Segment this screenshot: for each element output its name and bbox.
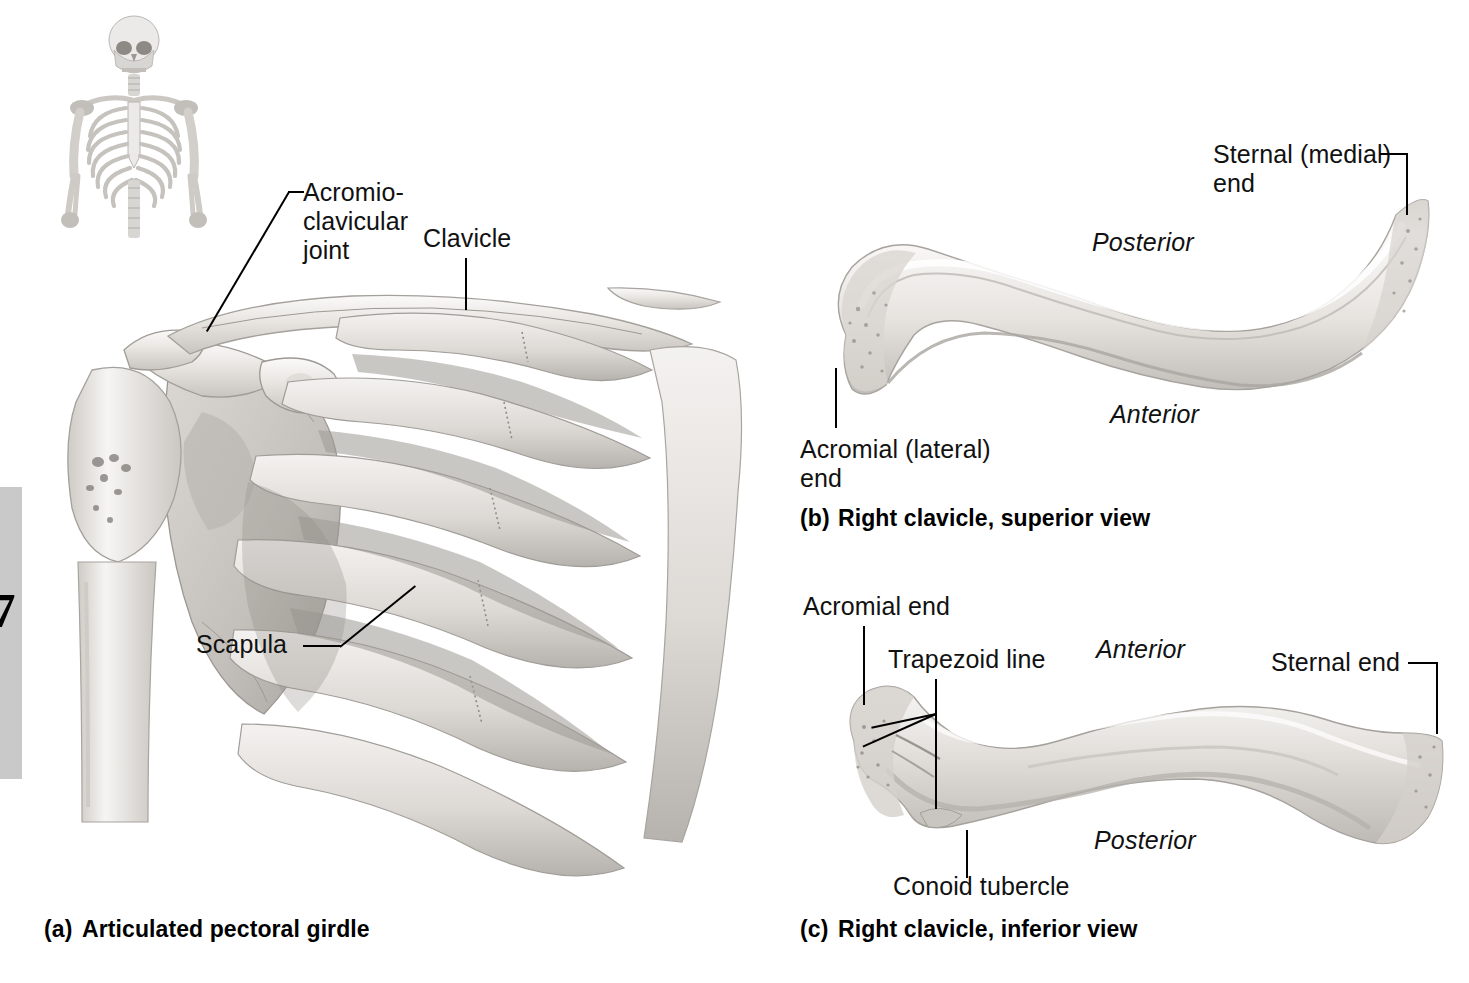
direction-posterior-panel-b: Posterior (1092, 228, 1194, 257)
leader-clavicle-vertical (465, 258, 467, 310)
leader-acromioclavicular-tick (288, 191, 304, 193)
panel-a-artwork-articulated-pectoral-girdle (52, 262, 752, 882)
leader-scapula-horizontal (303, 645, 341, 647)
direction-posterior-panel-c: Posterior (1094, 826, 1196, 855)
leader-sternal-medial-horizontal (1380, 153, 1408, 155)
leader-conoid-tubercle-vertical (966, 830, 968, 878)
label-sternal-medial-end: Sternal (medial) end (1213, 140, 1423, 198)
label-clavicle: Clavicle (423, 224, 563, 253)
leader-sternal-end-vertical (1436, 662, 1438, 734)
caption-panel-c: (c)Right clavicle, inferior view (800, 916, 1137, 943)
leader-sternal-end-horizontal (1408, 662, 1438, 664)
label-conoid-tubercle: Conoid tubercle (893, 872, 1093, 901)
direction-anterior-panel-b: Anterior (1110, 400, 1199, 429)
leader-acromial-end-vertical (863, 626, 865, 705)
page-tab-number: 7 (0, 588, 17, 634)
caption-letter-a: (a) (44, 916, 82, 943)
direction-anterior-panel-c: Anterior (1096, 635, 1185, 664)
caption-text-c: Right clavicle, inferior view (838, 916, 1137, 942)
skeleton-orientation-inset (36, 12, 232, 244)
caption-panel-a: (a)Articulated pectoral girdle (44, 916, 370, 943)
label-scapula: Scapula (196, 630, 316, 659)
caption-letter-c: (c) (800, 916, 838, 943)
caption-text-b: Right clavicle, superior view (838, 505, 1150, 531)
label-trapezoid-line: Trapezoid line (888, 645, 1073, 674)
label-acromial-lateral-end: Acromial (lateral) end (800, 435, 1030, 493)
panel-b-artwork-right-clavicle-superior (810, 185, 1450, 415)
leader-acromial-lateral-vertical (835, 368, 837, 428)
label-acromioclavicular-joint: Acromio- clavicular joint (303, 178, 433, 265)
figure-root: 7 (0, 0, 1469, 983)
leader-sternal-medial-vertical (1406, 153, 1408, 215)
label-acromial-end: Acromial end (803, 592, 983, 621)
caption-text-a: Articulated pectoral girdle (82, 916, 370, 942)
leader-trapezoid-line-vertical (935, 679, 937, 809)
caption-panel-b: (b)Right clavicle, superior view (800, 505, 1150, 532)
caption-letter-b: (b) (800, 505, 838, 532)
label-sternal-end: Sternal end (1250, 648, 1400, 677)
